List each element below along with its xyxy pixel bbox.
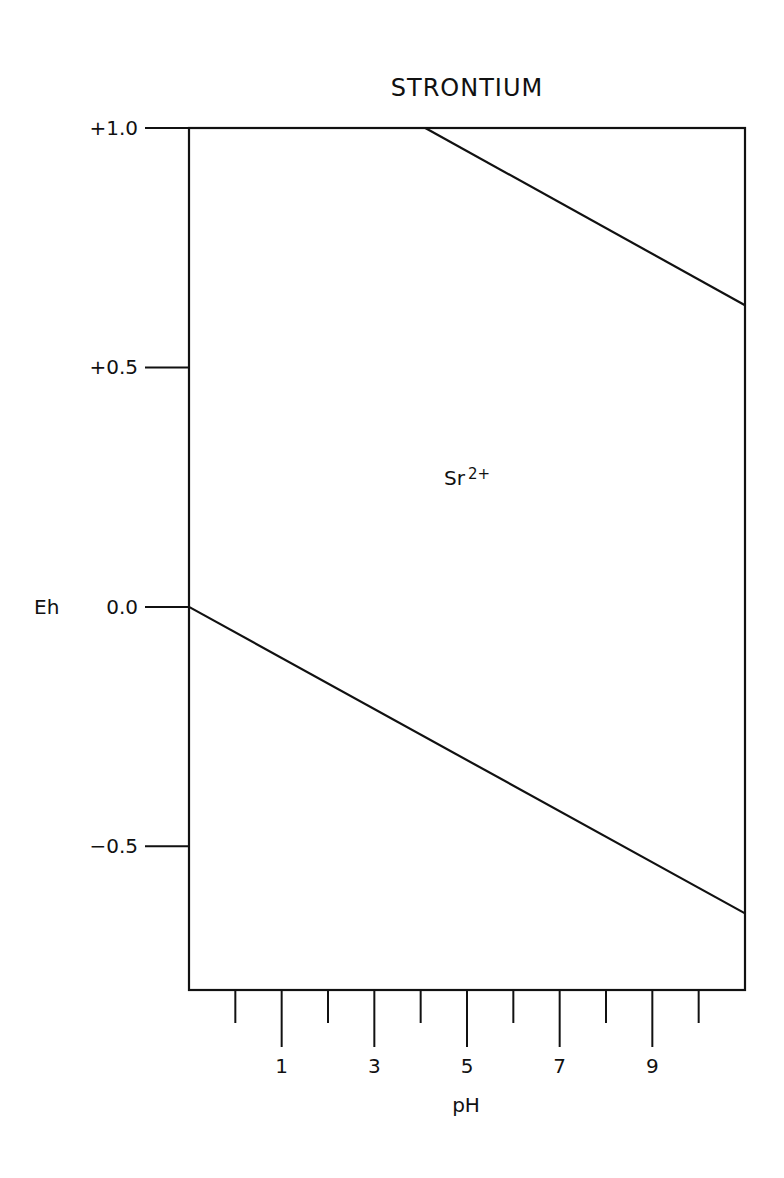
x-tick-label: 1 — [275, 1054, 288, 1078]
plot-frame — [189, 128, 745, 990]
eh-ph-diagram: STRONTIUM +1.0+0.50.0−0.5 13579 Eh pH Sr… — [0, 0, 784, 1178]
x-axis-label: pH — [452, 1093, 480, 1117]
x-tick-label: 7 — [553, 1054, 566, 1078]
y-tick-label: +0.5 — [89, 355, 138, 379]
x-axis: 13579 — [235, 990, 698, 1078]
chart-title: STRONTIUM — [391, 74, 543, 102]
boundary-lines — [189, 128, 745, 913]
x-tick-label: 3 — [368, 1054, 381, 1078]
region-label-charge: 2+ — [468, 465, 490, 483]
upper-boundary-line — [425, 128, 745, 305]
x-tick-label: 5 — [461, 1054, 474, 1078]
y-tick-label: 0.0 — [106, 595, 138, 619]
region-label-sr2plus: Sr2+ — [444, 465, 490, 490]
x-tick-label: 9 — [646, 1054, 659, 1078]
y-tick-label: −0.5 — [89, 834, 138, 858]
y-axis-label: Eh — [34, 595, 59, 619]
y-tick-label: +1.0 — [89, 116, 138, 140]
lower-boundary-line — [189, 607, 745, 913]
y-axis: +1.0+0.50.0−0.5 — [89, 116, 189, 858]
region-label-species: Sr — [444, 466, 466, 490]
